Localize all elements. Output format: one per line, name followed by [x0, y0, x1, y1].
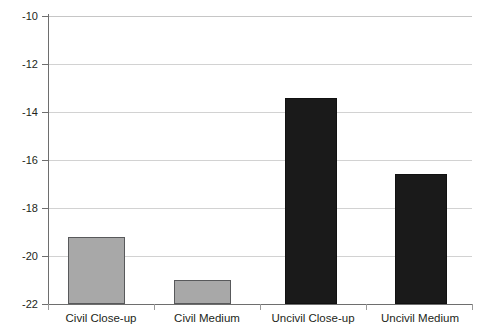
- x-tick-mark-2: [260, 304, 261, 310]
- y-tick-label-minus-22: -22: [4, 299, 38, 310]
- x-axis-label-civil-close-up: Civil Close-up: [48, 311, 154, 325]
- y-tick-label-minus-20: -20: [4, 251, 38, 262]
- bar-uncivil-close-up: [285, 98, 337, 304]
- x-axis-label-uncivil-close-up: Uncivil Close-up: [258, 311, 368, 325]
- bar-chart: -10 -12 -14 -16 -18 -20 -22 Civil Close-…: [0, 0, 482, 332]
- y-tick-label-minus-12: -12: [4, 59, 38, 70]
- x-tick-mark-3: [366, 304, 367, 310]
- y-tick-mark-1: [42, 64, 48, 65]
- y-tick-label-minus-16: -16: [4, 155, 38, 166]
- y-tick-mark-4: [42, 208, 48, 209]
- y-axis-line: [48, 14, 49, 306]
- y-tick-mark-5: [42, 256, 48, 257]
- y-tick-label-minus-10: -10: [4, 11, 38, 22]
- y-tick-mark-2: [42, 112, 48, 113]
- x-axis-label-uncivil-medium: Uncivil Medium: [366, 311, 474, 325]
- x-tick-mark-4: [472, 304, 473, 310]
- y-tick-label-minus-14: -14: [4, 107, 38, 118]
- gridline-minus-16: [48, 160, 472, 161]
- bar-civil-close-up: [68, 237, 125, 304]
- bar-civil-medium: [174, 280, 231, 304]
- bar-uncivil-medium: [395, 174, 447, 304]
- y-tick-label-minus-18: -18: [4, 203, 38, 214]
- x-tick-mark-1: [154, 304, 155, 310]
- gridline-minus-14: [48, 112, 472, 113]
- gridline-minus-12: [48, 64, 472, 65]
- y-tick-mark-0: [42, 16, 48, 17]
- x-tick-mark-0: [48, 304, 49, 310]
- y-tick-mark-3: [42, 160, 48, 161]
- gridline-minus-10: [48, 16, 472, 17]
- x-axis-label-civil-medium: Civil Medium: [154, 311, 260, 325]
